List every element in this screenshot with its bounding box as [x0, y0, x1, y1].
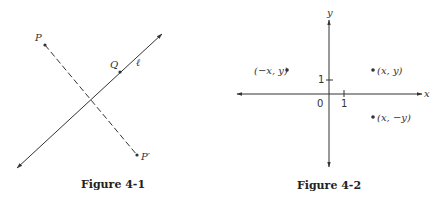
line-l [17, 34, 162, 168]
label-line-l: ℓ [136, 57, 140, 68]
label-x-y: (x, y) [377, 65, 403, 76]
origin-label: 0 [317, 98, 323, 109]
label-x-neg-y: (x, −y) [377, 112, 411, 123]
figures-canvas: P Q ℓ P′ Figure 4-1 x y 0 1 1 (−x, y) (x… [0, 0, 443, 203]
point-p [43, 43, 46, 46]
point-q [118, 70, 121, 73]
label-q: Q [110, 59, 118, 70]
x-axis-label: x [424, 88, 430, 99]
y-tick-label: 1 [318, 74, 324, 85]
point-x-y [371, 68, 375, 72]
caption-figure-4-2: Figure 4-2 [297, 179, 361, 192]
x-tick-label: 1 [341, 98, 347, 109]
point-p-prime [135, 153, 138, 156]
caption-figure-4-1: Figure 4-1 [81, 178, 145, 191]
label-neg-x-y: (−x, y) [254, 65, 288, 76]
y-axis-label: y [326, 7, 333, 18]
label-p: P [34, 32, 42, 43]
point-x-neg-y [371, 115, 375, 119]
figure-4-1: P Q ℓ P′ Figure 4-1 [17, 32, 162, 191]
label-p-prime: P′ [140, 151, 151, 162]
figure-4-2: x y 0 1 1 (−x, y) (x, y) (x, −y) Figure … [237, 7, 430, 192]
